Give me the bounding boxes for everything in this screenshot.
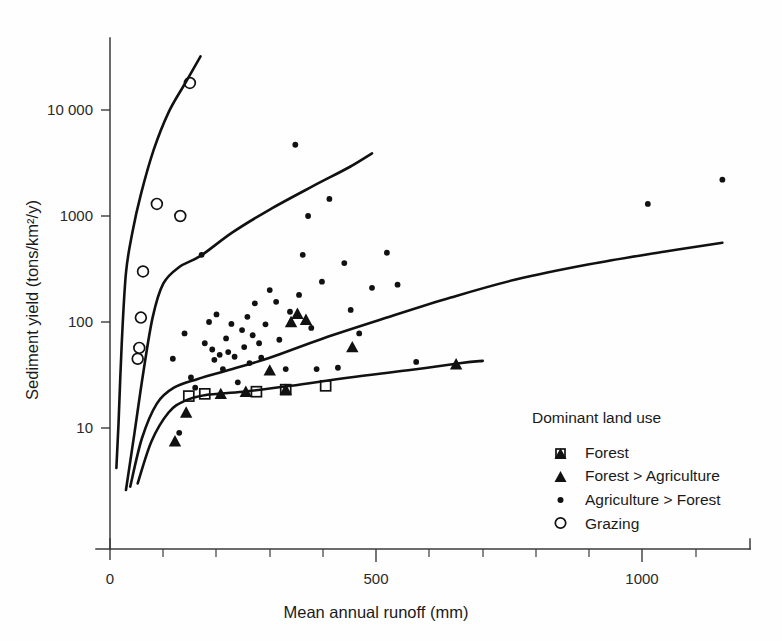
x-ticklabel-500: 500: [363, 570, 388, 587]
data-point-dot: [369, 285, 375, 291]
data-point-dot: [188, 375, 194, 381]
data-point-dot: [395, 282, 401, 288]
data-point-open-circle: [175, 211, 186, 222]
data-point-dot: [223, 336, 229, 342]
data-point-dot: [214, 311, 220, 317]
data-point-filled-triangle: [291, 307, 303, 318]
data-point-dot: [244, 314, 250, 320]
data-point-dot: [256, 340, 262, 346]
data-point-dot: [273, 299, 279, 305]
data-point-open-circle: [151, 199, 162, 210]
data-point-dot: [176, 430, 182, 436]
legend-label-forest: Forest: [585, 444, 630, 461]
x-ticks-group: 0 500 1000: [106, 538, 696, 587]
data-point-dot: [341, 260, 347, 266]
legend-item-forest[interactable]: Forest: [556, 444, 630, 461]
data-point-dot: [645, 201, 651, 207]
chart-figure: 10 000 1000 100 10 0 500 1000 Mean annua…: [0, 0, 782, 641]
data-point-dot: [263, 321, 269, 327]
data-point-dot: [348, 307, 354, 313]
data-point-dot: [250, 332, 256, 338]
data-point-dot: [241, 344, 247, 350]
series-forest-agriculture: [169, 307, 463, 446]
data-point-dot: [239, 327, 245, 333]
data-point-open-circle: [134, 342, 145, 353]
legend-label-forest-agriculture: Forest > Agriculture: [585, 467, 720, 484]
data-point-dot: [384, 250, 390, 256]
data-point-dot: [192, 385, 198, 391]
data-points-layer: [132, 78, 725, 447]
data-point-dot: [235, 379, 241, 385]
data-point-dot: [252, 300, 258, 306]
data-point-dot: [225, 349, 231, 355]
open-circle-icon: [555, 518, 565, 528]
data-point-dot: [199, 252, 205, 258]
data-point-dot: [305, 213, 311, 219]
legend-item-agriculture-forest[interactable]: Agriculture > Forest: [558, 491, 722, 508]
data-point-open-circle: [132, 353, 143, 364]
data-point-dot: [209, 347, 215, 353]
data-point-filled-triangle: [180, 406, 192, 417]
data-point-dot: [247, 360, 253, 366]
data-point-open-circle: [138, 266, 149, 277]
data-point-dot: [202, 340, 208, 346]
data-point-dot: [232, 354, 238, 360]
data-point-filled-triangle: [169, 435, 181, 446]
data-point-filled-triangle: [346, 341, 358, 352]
x-ticklabel-1000: 1000: [625, 570, 658, 587]
data-point-dot: [319, 279, 325, 285]
data-point-dot: [217, 352, 223, 358]
x-axis-title: Mean annual runoff (mm): [284, 603, 469, 621]
y-ticklabel-10000: 10 000: [47, 101, 93, 118]
filled-triangle-icon-2: [555, 471, 567, 482]
data-point-dot: [276, 337, 282, 343]
legend-title: Dominant land use: [532, 409, 661, 426]
data-point-filled-triangle: [264, 364, 276, 375]
data-point-dot: [292, 142, 298, 148]
data-point-dot: [296, 292, 302, 298]
y-ticklabel-10: 10: [76, 419, 93, 436]
data-point-dot: [335, 365, 341, 371]
data-point-dot: [267, 287, 273, 293]
data-point-dot: [300, 252, 306, 258]
y-ticklabel-100: 100: [68, 313, 93, 330]
data-point-dot: [170, 356, 176, 362]
legend-marker-row-2: [555, 471, 567, 482]
data-point-dot: [211, 357, 217, 363]
scatter-plot-svg: 10 000 1000 100 10 0 500 1000 Mean annua…: [0, 0, 782, 641]
y-ticks-group: 10 000 1000 100 10: [47, 101, 110, 436]
legend-item-grazing[interactable]: Grazing: [555, 515, 639, 532]
data-point-dot: [287, 309, 293, 315]
data-point-dot: [719, 177, 725, 183]
data-point-dot: [220, 366, 226, 372]
data-point-dot: [283, 366, 289, 372]
data-point-dot: [326, 196, 332, 202]
data-point-dot: [356, 331, 362, 337]
data-point-dot: [182, 331, 188, 337]
data-point-open-circle: [135, 312, 146, 323]
y-axis-title: Sediment yield (tons/km²/y): [23, 200, 41, 400]
legend-label-agriculture-forest: Agriculture > Forest: [585, 491, 721, 508]
data-point-dot: [206, 319, 212, 325]
data-point-dot: [229, 321, 235, 327]
legend-label-grazing: Grazing: [585, 515, 639, 532]
data-point-dot: [314, 366, 320, 372]
data-point-dot: [413, 359, 419, 365]
trend-curve-agriculture-lower-envelope: [130, 243, 722, 487]
data-point-dot: [308, 325, 314, 331]
data-point-dot: [258, 355, 264, 361]
x-ticklabel-0: 0: [106, 570, 114, 587]
legend-item-forest-agriculture[interactable]: Forest > Agriculture: [555, 448, 720, 484]
legend: Dominant land use Forest Forest > Agricu…: [532, 409, 721, 532]
y-ticklabel-1000: 1000: [60, 207, 93, 224]
small-dot-icon: [558, 497, 564, 503]
